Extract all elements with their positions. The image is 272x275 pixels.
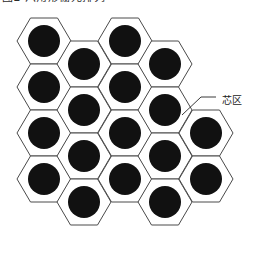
- core-zone-circle: [28, 163, 60, 195]
- core-zone-circle: [68, 186, 100, 218]
- core-zone-circle: [68, 94, 100, 126]
- core-zone-circle: [28, 25, 60, 57]
- core-zone-circle: [190, 163, 222, 195]
- core-zone-circle: [149, 48, 181, 80]
- core-zone-circle: [149, 94, 181, 126]
- hexagon-lattice-canvas: 芯区: [0, 0, 272, 275]
- core-zone-circle: [68, 48, 100, 80]
- core-zone-circle: [109, 71, 141, 103]
- core-zone-circle: [149, 186, 181, 218]
- core-zone-circle: [109, 25, 141, 57]
- core-zone-circle: [28, 71, 60, 103]
- figure-caption-text: 图2 六角形栅元排列: [2, 0, 106, 3]
- figure-caption-cropped: 图2 六角形栅元排列: [0, 0, 272, 9]
- core-zone-circle: [109, 117, 141, 149]
- core-zone-circle: [68, 140, 100, 172]
- hexagonal-lattice-figure: 图2 六角形栅元排列 芯区: [0, 0, 272, 275]
- core-zone-circle: [109, 163, 141, 195]
- core-zone-circle: [190, 117, 222, 149]
- annotation-label-core-zone: 芯区: [222, 94, 242, 106]
- core-zone-circle: [28, 117, 60, 149]
- core-zone-circle: [149, 140, 181, 172]
